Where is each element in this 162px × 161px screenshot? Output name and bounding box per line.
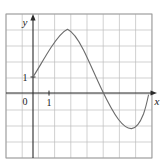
y-tick-label-1: 1: [23, 72, 28, 83]
graph-figure: y y: [0, 0, 162, 161]
x-axis-label: x: [154, 95, 160, 107]
y-axis-label: y: [22, 16, 28, 28]
origin-label: 0: [23, 96, 28, 107]
coordinate-plane: y x 1 0 1: [0, 0, 162, 161]
x-tick-label-1: 1: [47, 97, 52, 108]
